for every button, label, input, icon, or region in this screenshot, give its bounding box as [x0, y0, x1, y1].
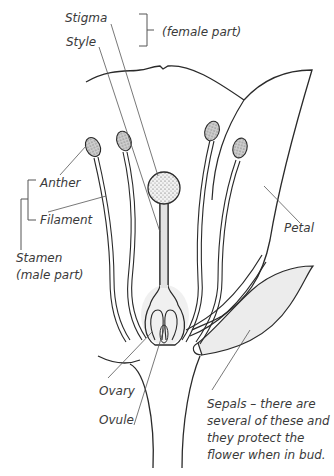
- label-female-part: (female part): [162, 24, 241, 41]
- label-ovary: Ovary: [99, 383, 135, 400]
- label-sepals-2: several of these and: [207, 413, 330, 430]
- label-filament: Filament: [40, 212, 92, 229]
- label-sepals-4: flower when in bud.: [207, 447, 326, 464]
- back-petal: [86, 66, 244, 100]
- flower-diagram: Stigma Style (female part) Anther Filame…: [0, 0, 334, 476]
- filament: [94, 158, 126, 342]
- label-sepals-3: they protect the: [207, 430, 304, 447]
- label-male-part: (male part): [16, 267, 84, 284]
- label-ovule: Ovule: [99, 412, 134, 429]
- label-sepals-1: Sepals – there are: [207, 396, 316, 413]
- label-stigma: Stigma: [65, 10, 107, 27]
- label-petal: Petal: [284, 220, 314, 237]
- label-anther: Anther: [40, 175, 80, 192]
- label-style: Style: [66, 34, 96, 51]
- sepal: [198, 266, 313, 355]
- stigma: [148, 172, 180, 204]
- label-stamen: Stamen: [16, 250, 62, 267]
